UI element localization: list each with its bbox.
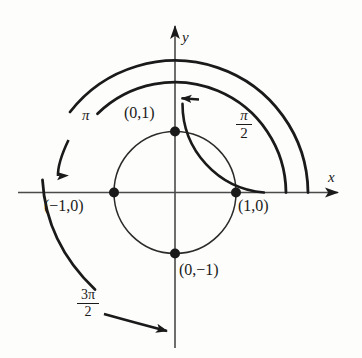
point-label-left: (−1,0) <box>44 198 84 214</box>
point-left <box>109 188 119 198</box>
arc-label-half-pi: π 2 <box>233 108 255 141</box>
arc-label-three-halves-pi-denominator: 2 <box>73 304 103 319</box>
unit-circle-figure: y x (0,1) (1,0) (−1,0) (0,−1) π 2 π 3π 2 <box>0 0 362 358</box>
arc-label-pi: π <box>82 108 90 123</box>
x-axis-label: x <box>328 170 335 185</box>
arc-label-three-halves-pi: 3π 2 <box>73 288 103 319</box>
point-label-top: (0,1) <box>124 105 155 121</box>
point-top <box>170 127 180 137</box>
arc-label-half-pi-numerator: π <box>233 108 255 124</box>
arc-pi-arrowhead <box>58 140 69 176</box>
point-label-bottom: (0,−1) <box>179 262 219 278</box>
point-bottom <box>170 249 180 259</box>
arc-half-pi-arrowhead <box>182 98 200 99</box>
point-label-right: (1,0) <box>238 198 269 214</box>
arc-three-halves-pi-arrowhead <box>104 314 167 331</box>
y-axis-label: y <box>182 30 189 45</box>
figure-canvas <box>0 0 362 358</box>
arc-three-halves-pi-upper <box>70 61 308 193</box>
arc-label-half-pi-denominator: 2 <box>233 125 255 141</box>
point-right <box>231 188 241 198</box>
arc-label-three-halves-pi-numerator: 3π <box>73 288 103 303</box>
